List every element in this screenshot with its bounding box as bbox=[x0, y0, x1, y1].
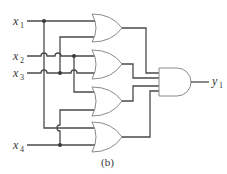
svg-text:x: x bbox=[12, 49, 19, 63]
or-gate-1 bbox=[92, 14, 122, 42]
wire-or1-to-and bbox=[122, 28, 159, 73]
junction-dot bbox=[58, 143, 62, 147]
input-label-x3: x 3 bbox=[12, 66, 24, 82]
svg-text:4: 4 bbox=[20, 145, 24, 154]
or-gate-3 bbox=[92, 87, 122, 116]
figure-caption: (b) bbox=[101, 156, 114, 169]
junction-dot bbox=[42, 19, 46, 23]
junction-dot bbox=[72, 54, 76, 58]
junction-dot bbox=[58, 71, 62, 75]
svg-text:1: 1 bbox=[20, 21, 24, 30]
svg-text:x: x bbox=[12, 14, 19, 28]
wire-or4-to-and bbox=[122, 91, 159, 137]
input-label-x4: x 4 bbox=[12, 138, 24, 154]
wire-x2 bbox=[27, 53, 96, 56]
input-label-x1: x 1 bbox=[12, 14, 24, 30]
wire-or3-to-and bbox=[122, 86, 159, 101]
wire-x3-to-or1 bbox=[60, 37, 96, 73]
input-label-x2: x 2 bbox=[12, 49, 24, 65]
wire-or2-to-and bbox=[122, 64, 159, 78]
and-gate bbox=[159, 68, 191, 96]
svg-text:x: x bbox=[12, 138, 19, 152]
svg-text:1: 1 bbox=[219, 81, 223, 90]
svg-text:2: 2 bbox=[20, 56, 24, 65]
svg-text:x: x bbox=[12, 66, 19, 80]
svg-text:3: 3 bbox=[20, 73, 24, 82]
or-gate-2 bbox=[92, 50, 122, 79]
output-label-y1: y 1 bbox=[211, 74, 223, 90]
svg-text:y: y bbox=[211, 74, 218, 88]
or-gate-4 bbox=[92, 122, 122, 152]
logic-circuit-diagram: x 1 x 2 x 3 x 4 y 1 (b) bbox=[0, 0, 227, 174]
